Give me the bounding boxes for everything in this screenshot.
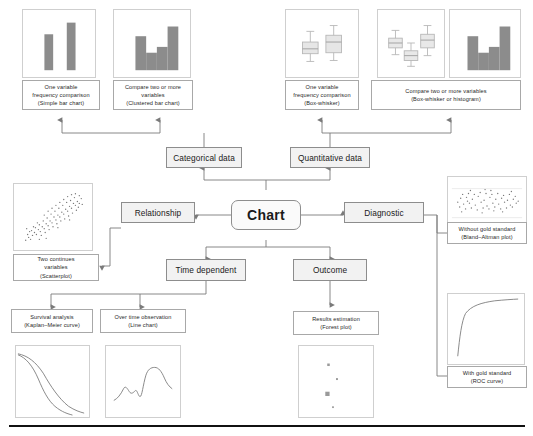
label-box-whisker-or-histogram: Compare two or more variables (Box-whisk… xyxy=(371,80,521,110)
thumbnail-histogram xyxy=(449,9,521,78)
thumbnail-scatterplot xyxy=(13,183,93,251)
label-line-chart: Over time observation (Line chart) xyxy=(100,309,186,333)
label-line-3: (Box-whisker) xyxy=(304,99,340,107)
label-line-2: frequency comparison xyxy=(32,91,89,99)
label-line-1: With gold standard xyxy=(463,369,512,377)
thumbnail-clustered-bar-chart xyxy=(113,9,191,78)
label-line-2: (Box-whisker or histogram) xyxy=(411,95,481,103)
label-line-1: Results estimation xyxy=(312,315,360,323)
label-line-1: One variable xyxy=(305,83,338,91)
node-outcome[interactable]: Outcome xyxy=(293,259,367,281)
label-line-1: Compare two or more xyxy=(125,83,181,91)
label-line-1: Without gold standard xyxy=(459,225,516,233)
flowchart-canvas: One variable frequency comparison (Simpl… xyxy=(0,0,533,436)
thumbnail-box-whisker-multi xyxy=(377,9,445,78)
label-line-2: (Line chart) xyxy=(128,321,158,329)
label-line-1: Over time observation xyxy=(114,313,171,321)
node-label: Relationship xyxy=(135,208,182,218)
bottom-divider xyxy=(9,425,525,427)
root-label: Chart xyxy=(247,207,285,223)
thumbnail-simple-bar-chart xyxy=(22,9,96,78)
label-kaplan-meier-curve: Survival analysis (Kaplan–Meier curve) xyxy=(11,309,93,333)
label-line-2: variables xyxy=(141,91,164,99)
node-label: Outcome xyxy=(313,265,347,275)
label-box-whisker: One variable frequency comparison (Box-w… xyxy=(285,80,359,110)
label-line-3: (Simple bar chart) xyxy=(38,99,84,107)
label-roc-curve: With gold standard (ROC curve) xyxy=(447,366,527,388)
thumbnail-forest-plot xyxy=(298,345,374,418)
node-label: Categorical data xyxy=(173,153,235,163)
thumbnail-line-chart xyxy=(105,345,181,418)
label-line-1: Compare two or more variables xyxy=(405,87,486,95)
label-forest-plot: Results estimation (Forest plot) xyxy=(293,311,379,335)
label-line-2: frequency comparison xyxy=(293,91,350,99)
label-bland-altman-plot: Without gold standard (Bland–Altman plot… xyxy=(447,222,527,244)
label-line-2: (Forest plot) xyxy=(320,323,352,331)
label-line-2: variables xyxy=(44,263,67,271)
label-line-1: One variable xyxy=(44,83,77,91)
label-line-3: (Clustered bar chart) xyxy=(126,99,180,107)
node-diagnostic[interactable]: Diagnostic xyxy=(344,202,424,223)
label-line-2: (Bland–Altman plot) xyxy=(461,233,512,241)
label-line-1: Two continues xyxy=(37,255,74,263)
label-scatterplot: Two continues variables (Scatterplot) xyxy=(13,254,99,281)
label-line-3: (Scatterplot) xyxy=(40,272,72,280)
label-simple-bar-chart: One variable frequency comparison (Simpl… xyxy=(22,80,100,110)
node-label: Time dependent xyxy=(176,265,237,275)
node-chart-root[interactable]: Chart xyxy=(231,200,301,230)
thumbnail-kaplan-meier-curve xyxy=(15,345,90,418)
label-line-1: Survival analysis xyxy=(30,313,74,321)
node-quantitative-data[interactable]: Quantitative data xyxy=(290,147,370,168)
thumbnail-box-whisker-one xyxy=(285,9,359,78)
node-label: Diagnostic xyxy=(364,208,404,218)
label-line-2: (ROC curve) xyxy=(471,377,504,385)
node-relationship[interactable]: Relationship xyxy=(121,202,195,223)
thumbnail-roc-curve xyxy=(447,293,525,365)
node-time-dependent[interactable]: Time dependent xyxy=(166,259,246,281)
label-clustered-bar-chart: Compare two or more variables (Clustered… xyxy=(113,80,193,110)
label-line-2: (Kaplan–Meier curve) xyxy=(24,321,80,329)
node-categorical-data[interactable]: Categorical data xyxy=(166,147,242,168)
node-label: Quantitative data xyxy=(298,153,362,163)
